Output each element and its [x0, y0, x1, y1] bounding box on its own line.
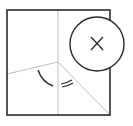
- left-fold-line: [7, 62, 58, 74]
- angle-single-arc: [38, 70, 53, 86]
- angle-double-arc-1: [61, 80, 72, 84]
- folded-square-diagram: [0, 0, 133, 126]
